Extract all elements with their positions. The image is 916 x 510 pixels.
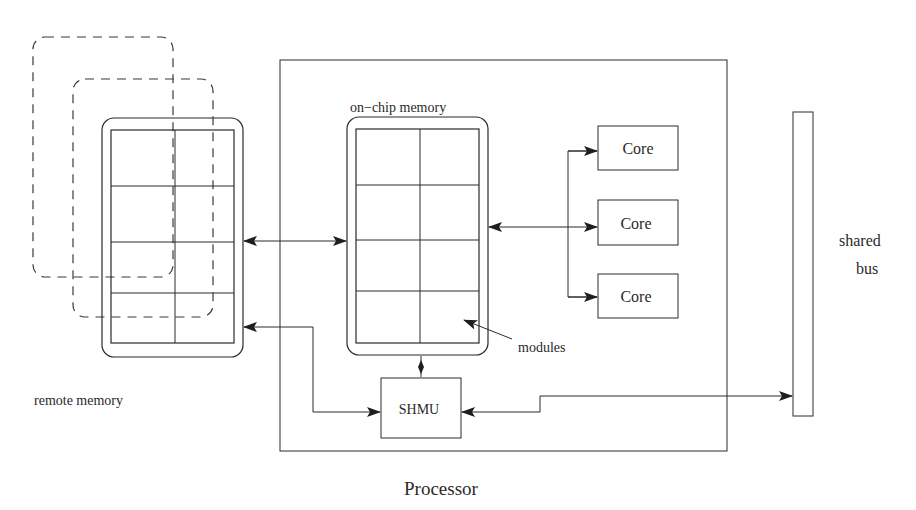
architecture-diagram: remote memory Processor on−chip memory m… xyxy=(0,0,916,510)
remote-memory-ghost-2 xyxy=(73,79,213,317)
onchip-shmu-link xyxy=(418,356,424,377)
core-1[interactable]: Core xyxy=(598,126,678,170)
shmu[interactable]: SHMU xyxy=(381,378,461,438)
modules-label: modules xyxy=(518,340,565,355)
core-2-label: Core xyxy=(620,215,651,232)
processor-label: Processor xyxy=(404,478,479,499)
on-chip-memory[interactable] xyxy=(347,117,488,355)
core-1-label: Core xyxy=(622,140,653,157)
core-2[interactable]: Core xyxy=(598,200,678,245)
core-3[interactable]: Core xyxy=(598,274,678,318)
on-chip-memory-grid xyxy=(356,129,479,343)
on-chip-memory-label: on−chip memory xyxy=(350,100,446,115)
core-bus xyxy=(568,151,597,297)
remote-memory-stack xyxy=(33,37,213,317)
remote-memory-ghost-1 xyxy=(33,37,173,277)
shared-bus-label-1: shared xyxy=(839,232,881,249)
on-chip-memory-outline xyxy=(347,117,488,355)
shmu-bus-link xyxy=(462,396,792,412)
core-3-label: Core xyxy=(620,288,651,305)
shared-bus-label-2: bus xyxy=(856,260,878,277)
shared-bus[interactable] xyxy=(793,112,813,416)
remote-shmu-link xyxy=(244,327,380,412)
shmu-label: SHMU xyxy=(399,402,439,417)
remote-memory-label: remote memory xyxy=(34,393,123,408)
